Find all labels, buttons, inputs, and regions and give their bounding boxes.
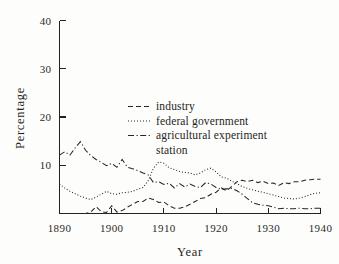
series-line-agricultural-experiment-station: [60, 142, 321, 209]
x-tick-label-1940: 1940: [309, 222, 333, 234]
series-line-federal-government: [60, 162, 321, 200]
legend-label-2: agricultural experiment: [156, 129, 268, 142]
chart-figure: 10203040189019001910192019301940 industr…: [0, 0, 339, 264]
x-tick-label-1890: 1890: [48, 222, 72, 234]
x-tick-label-1910: 1910: [152, 222, 176, 234]
line-chart-canvas: 10203040189019001910192019301940 industr…: [0, 0, 339, 264]
y-tick-label-30: 30: [40, 63, 52, 75]
legend-label-3: station: [156, 144, 188, 156]
y-tick-label-10: 10: [40, 159, 52, 171]
x-axis-title: Year: [177, 245, 203, 259]
chart-legend: industryfederal governmentagricultural e…: [128, 100, 268, 156]
x-tick-label-1920: 1920: [204, 222, 228, 234]
legend-label-1: federal government: [156, 115, 249, 128]
data-series-group: [60, 142, 321, 214]
x-tick-label-1900: 1900: [100, 222, 124, 234]
legend-label-0: industry: [156, 100, 195, 113]
y-axis-title: Percentage: [13, 87, 27, 149]
y-tick-label-40: 40: [40, 15, 52, 27]
x-tick-label-1930: 1930: [256, 222, 280, 234]
y-tick-label-20: 20: [40, 111, 52, 123]
